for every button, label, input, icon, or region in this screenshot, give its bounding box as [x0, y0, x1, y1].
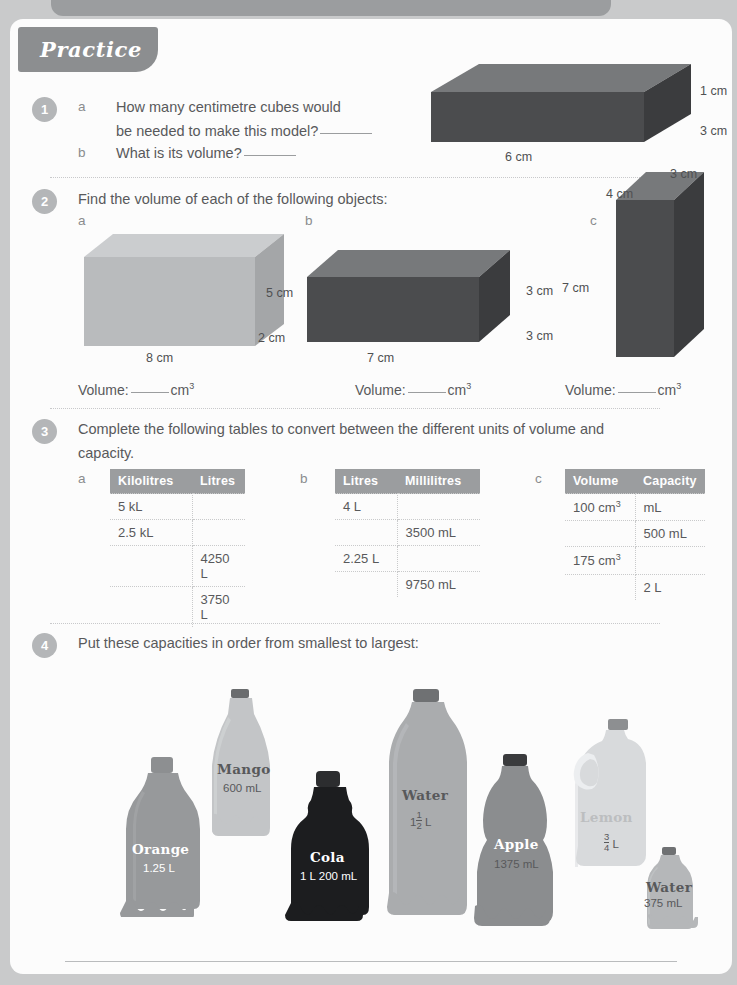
- question-number-4: 4: [32, 633, 57, 658]
- q1-part-b-letter: b: [78, 145, 86, 160]
- water-large-unit: L: [425, 816, 431, 828]
- q1-part-b-line1: What is its volume?: [116, 141, 298, 165]
- q3-table-a-letter: a: [78, 471, 86, 486]
- q2c-dim-length: 3 cm: [670, 167, 697, 181]
- q3c-header-0: Volume: [565, 469, 635, 494]
- question-number-1: 1: [32, 97, 57, 122]
- table-row: 3500 mL: [335, 520, 480, 546]
- water-large-fraction: 12: [416, 810, 421, 831]
- question-number-3: 3: [32, 419, 57, 444]
- q3c-r1c0[interactable]: [565, 521, 635, 547]
- q3-prompt-line2: capacity.: [78, 441, 134, 465]
- bottle-cola: [282, 771, 378, 921]
- q3b-r1c0[interactable]: [335, 520, 397, 546]
- bottle-orange-name: Orange: [132, 841, 189, 857]
- bottle-orange-svg: [118, 757, 208, 917]
- bottle-cola-capacity: 1 L 200 mL: [300, 870, 357, 882]
- q3c-r2c1[interactable]: [635, 547, 705, 574]
- q2b-volume-unit: cm: [448, 382, 467, 398]
- q1-dim-depth: 3 cm: [700, 124, 727, 138]
- bottle-lemon-capacity: 34 L: [604, 832, 619, 853]
- lemon-unit: L: [613, 838, 619, 850]
- q2-prompt: Find the volume of each of the following…: [78, 187, 388, 211]
- q2-object-a-prism-diagram: [72, 231, 287, 356]
- q3b-r3c1[interactable]: 9750 mL: [397, 572, 480, 598]
- table-row: 2 L: [565, 574, 705, 600]
- q2b-volume-blank[interactable]: [408, 392, 446, 393]
- q2a-volume-label: Volume:: [78, 382, 129, 398]
- bottle-orange-capacity: 1.25 L: [143, 862, 175, 874]
- q2c-volume-answer: Volume:cm3: [565, 381, 681, 398]
- q2a-volume-blank[interactable]: [131, 392, 169, 393]
- q2a-volume-unit: cm: [171, 382, 190, 398]
- q3a-r1c1[interactable]: [192, 520, 245, 546]
- q3-table-b-letter: b: [300, 471, 308, 486]
- bottle-water-small-capacity: 375 mL: [644, 897, 682, 909]
- bottle-apple-capacity: 1375 mL: [494, 858, 539, 870]
- q3b-r1c1[interactable]: 3500 mL: [397, 520, 480, 546]
- q1-part-b-answer-blank[interactable]: [244, 155, 296, 156]
- table-header-row: Litres Millilitres: [335, 469, 480, 494]
- q3a-header-1: Litres: [192, 469, 245, 494]
- q3c-header-1: Capacity: [635, 469, 705, 494]
- table-row: 3750 L: [110, 587, 245, 628]
- q3c-r3c1[interactable]: 2 L: [635, 574, 705, 600]
- q3b-r0c1[interactable]: [397, 494, 480, 520]
- q3c-r2c0[interactable]: 175 cm3: [565, 547, 635, 574]
- q3-table-c-letter: c: [535, 471, 542, 486]
- q3c-r3c0[interactable]: [565, 574, 635, 600]
- q3a-r2c0[interactable]: [110, 546, 192, 587]
- q1-part-a-answer-blank[interactable]: [320, 133, 372, 134]
- q2-object-a-letter: a: [78, 213, 86, 228]
- q2c-volume-unit-exp: 3: [676, 381, 681, 391]
- bottle-water-large-capacity: 112 L: [410, 810, 431, 831]
- table-row: 5 kL: [110, 494, 245, 520]
- page-top-strip: [0, 0, 737, 20]
- q2-object-c-letter: c: [590, 213, 597, 228]
- q3b-header-1: Millilitres: [397, 469, 480, 494]
- bottle-water-large-svg: [386, 689, 472, 917]
- q3b-r0c0[interactable]: 4 L: [335, 494, 397, 520]
- q3b-header-0: Litres: [335, 469, 397, 494]
- bottle-mango-capacity: 600 mL: [223, 782, 261, 794]
- practice-heading-label: Practice: [40, 37, 142, 62]
- q2a-dim-depth: 2 cm: [258, 331, 285, 345]
- bottle-cola-svg: [282, 771, 378, 921]
- q1-dim-width: 6 cm: [505, 150, 532, 164]
- q3a-r3c1[interactable]: 3750 L: [192, 587, 245, 628]
- q2c-volume-blank[interactable]: [618, 392, 656, 393]
- q3a-r0c0[interactable]: 5 kL: [110, 494, 192, 520]
- q1-part-a-line1: How many centimetre cubes would: [116, 95, 341, 119]
- question-number-2: 2: [32, 189, 57, 214]
- table-row: 500 mL: [565, 521, 705, 547]
- q2b-prism-svg: [298, 247, 513, 357]
- q3a-r0c1[interactable]: [192, 494, 245, 520]
- q3-table-b: Litres Millilitres 4 L 3500 mL 2.25 L 97…: [335, 469, 480, 597]
- q3b-r3c0[interactable]: [335, 572, 397, 598]
- q3a-r2c1[interactable]: 4250 L: [192, 546, 245, 587]
- q3a-r1c0[interactable]: 2.5 kL: [110, 520, 192, 546]
- table-header-row: Kilolitres Litres: [110, 469, 245, 494]
- q3c-r0c0[interactable]: 100 cm3: [565, 494, 635, 521]
- q1-dim-height: 1 cm: [700, 84, 727, 98]
- q1-part-a-line2: be needed to make this model?: [116, 119, 374, 143]
- q2a-volume-answer: Volume:cm3: [78, 381, 194, 398]
- q2b-dim-depth: 3 cm: [526, 329, 553, 343]
- q2a-dim-height: 5 cm: [266, 286, 293, 300]
- q3b-r2c0[interactable]: 2.25 L: [335, 546, 397, 572]
- worksheet-page: Practice 1 a How many centimetre cubes w…: [10, 19, 732, 974]
- q2c-dim-height: 7 cm: [562, 281, 589, 295]
- q3c-r0c1[interactable]: mL: [635, 494, 705, 521]
- q2b-volume-label: Volume:: [355, 382, 406, 398]
- q3a-r3c0[interactable]: [110, 587, 192, 628]
- table-row: 100 cm3 mL: [565, 494, 705, 521]
- lemon-fraction: 34: [604, 832, 609, 853]
- table-row: 9750 mL: [335, 572, 480, 598]
- bottle-water-small-name: Water: [646, 879, 692, 895]
- water-large-denominator: 2: [416, 820, 421, 831]
- bottle-apple-name: Apple: [494, 836, 539, 852]
- q4-prompt: Put these capacities in order from small…: [78, 631, 419, 655]
- q2-object-b-letter: b: [305, 213, 313, 228]
- q3c-r1c1[interactable]: 500 mL: [635, 521, 705, 547]
- q3b-r2c1[interactable]: [397, 546, 480, 572]
